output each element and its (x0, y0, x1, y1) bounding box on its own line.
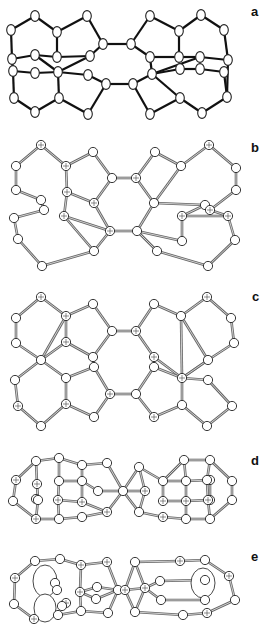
bond (150, 98, 180, 114)
atom-ellipsoid (93, 486, 102, 495)
atom-ellipsoid (11, 185, 20, 194)
atom-ellipsoid (9, 599, 18, 608)
atom-ellipsoid (7, 25, 16, 36)
atom-ellipsoid (227, 401, 236, 410)
atom-ellipsoid (36, 195, 45, 204)
atom-ellipsoid (88, 299, 97, 308)
atom-ellipsoid (156, 595, 165, 604)
atom-ellipsoid (200, 555, 209, 564)
atom-ellipsoid (177, 400, 186, 409)
atom-ellipsoid (227, 476, 236, 485)
atom-ellipsoid (107, 173, 116, 182)
bond (57, 56, 90, 57)
atom-ellipsoid (231, 163, 240, 172)
atom-ellipsoid (176, 161, 185, 170)
atom-ellipsoid (39, 205, 48, 214)
atom-ellipsoid (76, 606, 85, 615)
atom-ellipsoid (177, 236, 186, 245)
atom-ellipsoid (220, 25, 229, 36)
atom-ellipsoid (102, 79, 111, 90)
atom-ellipsoid (53, 610, 62, 619)
atom-ellipsoid (155, 576, 164, 585)
atom-ellipsoid (61, 373, 70, 382)
atom-ellipsoid (203, 355, 212, 364)
atom-ellipsoid (205, 514, 214, 523)
atom-ellipsoid (176, 311, 185, 320)
atom-ellipsoid (176, 93, 185, 104)
panel-b (9, 140, 240, 270)
atom-ellipsoid (31, 107, 40, 118)
atom-ellipsoid (84, 109, 93, 120)
atom-ellipsoid (107, 326, 116, 335)
atom-ellipsoid (149, 299, 158, 308)
atom-ellipsoid (9, 66, 18, 77)
atom-ellipsoid (31, 11, 40, 22)
atom-ellipsoid (131, 389, 140, 398)
atom-ellipsoid (223, 92, 232, 103)
atom-ellipsoid (146, 11, 155, 22)
panel-label-a: a (251, 4, 258, 19)
atom-ellipsoid (30, 556, 39, 565)
atom-ellipsoid (146, 109, 155, 120)
panel-label-d: d (251, 453, 259, 468)
atom-ellipsoid (146, 52, 155, 63)
atom-ellipsoid (53, 52, 62, 63)
atom-ellipsoid (91, 594, 100, 603)
panel-label-b: b (251, 140, 259, 155)
panel-e (9, 554, 239, 623)
atom-ellipsoid (149, 362, 158, 371)
atom-ellipsoid (103, 608, 112, 617)
atom-ellipsoid (77, 512, 86, 521)
atom-ellipsoid (54, 514, 63, 523)
atom-ellipsoid (118, 486, 127, 495)
atom-ellipsoid (197, 10, 206, 21)
atom-ellipsoid (54, 453, 63, 462)
atom-ellipsoid (37, 261, 46, 270)
panel-a (7, 10, 233, 120)
atom-ellipsoid (89, 246, 98, 255)
atom-ellipsoid (8, 54, 17, 65)
atom-ellipsoid (57, 601, 66, 610)
atom-ellipsoid (10, 375, 19, 384)
atom-ellipsoid (31, 68, 40, 79)
atom-ellipsoid (52, 585, 61, 594)
atom-ellipsoid (54, 67, 63, 78)
atom-ellipsoid (134, 462, 143, 471)
atom-ellipsoid (36, 421, 45, 430)
molecular-structure-figure (0, 0, 273, 634)
panel-c (10, 292, 238, 430)
atom-ellipsoid (175, 52, 184, 63)
atom-ellipsoid (130, 607, 139, 616)
atom-ellipsoid (227, 495, 236, 504)
atom-ellipsoid (84, 70, 93, 81)
atom-ellipsoid (54, 476, 63, 485)
atom-ellipsoid (102, 458, 111, 467)
atom-ellipsoid (179, 455, 188, 464)
atom-ellipsoid (202, 421, 211, 430)
atom-ellipsoid (176, 64, 185, 75)
atom-ellipsoid (203, 375, 212, 384)
atom-ellipsoid (129, 79, 138, 90)
atom-ellipsoid (55, 554, 64, 563)
atom-ellipsoid (31, 50, 40, 61)
atom-ellipsoid (181, 476, 190, 485)
atom-ellipsoid (83, 11, 92, 22)
bond (58, 56, 90, 72)
atom-ellipsoid (132, 226, 141, 235)
atom-ellipsoid (88, 352, 97, 361)
atom-ellipsoid (11, 161, 20, 170)
atom-ellipsoid (226, 313, 235, 322)
atom-ellipsoid (10, 93, 19, 104)
panel-label-c: c (252, 289, 259, 304)
atom-ellipsoid (152, 246, 161, 255)
atom-ellipsoid (148, 69, 157, 80)
atom-ellipsoid (200, 575, 209, 584)
panel-d (8, 453, 236, 523)
atom-ellipsoid (127, 39, 136, 50)
atom-ellipsoid (11, 338, 20, 347)
panel-label-e: e (251, 549, 258, 564)
atom-ellipsoid (8, 496, 17, 505)
atom-ellipsoid (31, 456, 40, 465)
atom-ellipsoid (130, 557, 139, 566)
atom-ellipsoid (224, 55, 233, 66)
